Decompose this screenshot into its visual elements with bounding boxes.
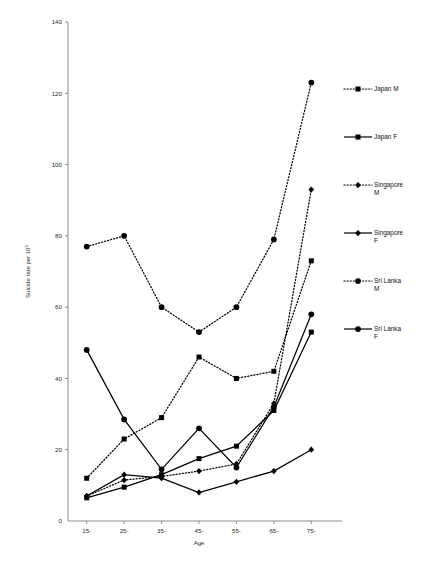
x-axis-tick-label: 45-: [195, 527, 204, 534]
legend-swatch-marker: [355, 182, 361, 188]
y-axis-title-text: Suicide rate per 105: [24, 245, 31, 298]
x-axis: 15-25-35-45-55-65-75-Age: [68, 521, 342, 546]
data-point: [308, 447, 314, 453]
y-axis-tick-label: 40: [55, 375, 62, 382]
data-point: [121, 472, 127, 478]
data-point: [122, 485, 127, 490]
y-axis-tick-label: 0: [59, 517, 63, 524]
data-point: [234, 304, 240, 310]
legend-label: F: [374, 333, 378, 340]
data-point: [84, 476, 89, 481]
legend-label: Sri Lanka: [374, 277, 401, 284]
x-axis-title-text: Age: [194, 540, 205, 546]
data-point: [271, 369, 276, 374]
series-singapore-m: [84, 186, 314, 499]
data-point: [196, 329, 202, 335]
x-axis-tick-label: 25-: [120, 527, 129, 534]
data-point: [308, 186, 314, 192]
data-point: [159, 304, 165, 310]
data-point: [234, 376, 239, 381]
x-axis-tick-label: 65-: [269, 527, 278, 534]
data-point: [234, 444, 239, 449]
series-line: [87, 261, 312, 478]
data-point: [308, 80, 314, 86]
legend-item-singapore-m[interactable]: SingaporeM: [344, 181, 404, 196]
series-line: [87, 314, 312, 469]
series-sri-lanka-m: [84, 80, 314, 335]
chart-canvas: 020406080100120140Suicide rate per 10515…: [0, 0, 428, 576]
suicide-rate-by-age-chart: 020406080100120140Suicide rate per 10515…: [0, 0, 428, 576]
data-point: [121, 233, 127, 239]
y-axis-tick-label: 20: [55, 446, 62, 453]
y-axis-tick-label: 120: [52, 90, 63, 97]
legend-label: M: [374, 189, 379, 196]
legend-swatch-marker: [355, 278, 361, 284]
data-point: [309, 258, 314, 263]
x-axis-tick-label: 15-: [82, 527, 91, 534]
legend-label: Singapore: [374, 181, 404, 189]
data-point: [121, 417, 127, 423]
legend-swatch-marker: [355, 230, 361, 236]
legend-swatch-marker: [355, 326, 361, 332]
legend-item-singapore-f[interactable]: SingaporeF: [344, 229, 404, 244]
legend-item-sri-lanka-m[interactable]: Sri LankaM: [344, 277, 401, 292]
data-point: [234, 479, 240, 485]
y-axis-tick-label: 100: [52, 161, 63, 168]
legend-swatch-marker: [356, 135, 361, 140]
data-point: [234, 465, 240, 471]
series-japan-m: [84, 258, 314, 480]
legend-swatch-marker: [356, 87, 361, 92]
data-point: [196, 489, 202, 495]
y-axis-tick-label: 60: [55, 303, 62, 310]
x-axis-tick-label: 35-: [157, 527, 166, 534]
x-axis-tick-label: 75-: [307, 527, 316, 534]
series-line: [87, 83, 312, 333]
data-point: [196, 468, 202, 474]
series-line: [87, 190, 312, 497]
data-point: [122, 437, 127, 442]
data-point: [271, 404, 277, 410]
legend-item-sri-lanka-f[interactable]: Sri LankaF: [344, 325, 401, 340]
data-point: [308, 311, 314, 317]
y-axis-tick-label: 140: [52, 18, 63, 25]
legend-item-japan-f[interactable]: Japan F: [344, 133, 397, 141]
y-axis-title-superscript: 5: [24, 245, 29, 248]
legend: Japan MJapan FSingaporeMSingaporeFSri La…: [344, 85, 404, 340]
data-point: [159, 415, 164, 420]
x-axis-tick-label: 55-: [232, 527, 241, 534]
legend-label: Japan M: [374, 85, 399, 93]
legend-item-japan-m[interactable]: Japan M: [344, 85, 399, 93]
data-point: [309, 330, 314, 335]
legend-label: Sri Lanka: [374, 325, 401, 332]
legend-label: F: [374, 237, 378, 244]
data-point: [197, 355, 202, 360]
y-axis-title: Suicide rate per 105: [24, 245, 31, 298]
legend-label: Japan F: [374, 133, 397, 141]
data-point: [271, 468, 277, 474]
data-point: [197, 456, 202, 461]
legend-label: M: [374, 285, 379, 292]
data-point: [271, 237, 277, 243]
data-point: [84, 244, 90, 250]
data-point: [196, 425, 202, 431]
y-axis: 020406080100120140: [52, 18, 68, 524]
legend-label: Singapore: [374, 229, 404, 237]
data-point: [159, 466, 165, 472]
data-point: [84, 347, 90, 353]
data-point: [121, 477, 127, 483]
series-group: [84, 80, 314, 501]
series-sri-lanka-f: [84, 311, 314, 472]
y-axis-tick-label: 80: [55, 232, 62, 239]
